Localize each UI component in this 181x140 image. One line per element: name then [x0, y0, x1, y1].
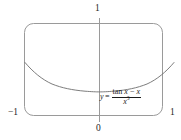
figure-graph: 1 0 −1 1 y = tan x − x x3 [0, 0, 181, 140]
x-axis-tick-label-1: 1 [170, 108, 175, 118]
equation-denominator: x3 [122, 97, 130, 106]
equation-minus-sign: − [130, 87, 135, 96]
equation-tan-function: tan [113, 87, 123, 96]
equation-numerator-tail: x [136, 87, 140, 96]
equation-annotation: y = tan x − x x3 [100, 88, 141, 106]
equation-lhs: y [100, 93, 104, 101]
plot-canvas [0, 0, 181, 140]
origin-tick-label-0: 0 [96, 124, 101, 134]
viewing-window-frame [25, 24, 163, 116]
equation-fraction: tan x − x x3 [112, 88, 141, 106]
equation-denominator-exponent: 3 [127, 95, 130, 101]
y-axis-tick-label-1: 1 [95, 4, 100, 14]
equation-equals-sign: = [105, 93, 110, 101]
x-axis-tick-label-minus-1: −1 [8, 108, 18, 118]
